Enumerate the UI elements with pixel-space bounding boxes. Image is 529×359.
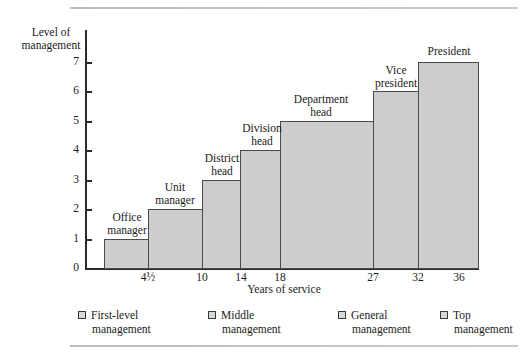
y-tick-label-6: 6 bbox=[57, 84, 79, 96]
y-tick-label-0: 0 bbox=[57, 261, 79, 273]
legend-label-middle-line2: management bbox=[222, 322, 281, 336]
bar-label-vice-president-line2: president bbox=[365, 77, 427, 90]
legend-label-middle-line1: Middle bbox=[221, 309, 254, 321]
bar-label-office-manager: Office manager bbox=[96, 211, 158, 237]
bar-president[interactable] bbox=[418, 62, 479, 269]
y-tick-label-7: 7 bbox=[57, 55, 79, 67]
legend-label-top-line1: Top bbox=[453, 309, 471, 321]
x-axis-title: Years of service bbox=[224, 283, 344, 296]
y-tick-3 bbox=[85, 180, 92, 182]
x-tick-label-36: 36 bbox=[439, 271, 479, 283]
bar-label-unit-manager-line1: Unit bbox=[142, 181, 208, 194]
x-tick-label-32: 32 bbox=[398, 271, 438, 283]
bar-label-division-head-line1: Division bbox=[233, 122, 291, 135]
x-tick-label-10: 10 bbox=[182, 271, 222, 283]
x-tick-label-14: 14 bbox=[221, 271, 261, 283]
x-tick-label-18: 18 bbox=[260, 271, 300, 283]
bar-label-district-head-line2: head bbox=[194, 165, 250, 178]
legend-label-first-level-line2: management bbox=[92, 322, 151, 336]
legend-item-first-level-management[interactable]: First-level management bbox=[78, 308, 151, 336]
legend-swatch-icon-general bbox=[338, 311, 346, 319]
bar-label-department-head: Department head bbox=[277, 93, 365, 119]
bar-label-unit-manager: Unit manager bbox=[142, 181, 208, 207]
plot-area: Level of management Years of service 7 6… bbox=[0, 0, 529, 300]
chart-legend: First-level management Middle management… bbox=[70, 308, 518, 342]
bar-label-district-head: District head bbox=[194, 152, 250, 178]
y-axis-title-line1: Level of bbox=[20, 26, 82, 39]
x-tick-label-27: 27 bbox=[353, 271, 393, 283]
bottom-divider-rule bbox=[70, 345, 518, 347]
bar-label-president-line1: President bbox=[412, 45, 486, 58]
bar-label-district-head-line1: District bbox=[194, 152, 250, 165]
bar-vice-president[interactable] bbox=[373, 91, 419, 269]
y-axis-title-line2: management bbox=[20, 39, 82, 52]
y-tick-label-5: 5 bbox=[57, 114, 79, 126]
y-tick-6 bbox=[85, 91, 92, 93]
legend-item-middle-management[interactable]: Middle management bbox=[208, 308, 281, 336]
bar-label-office-manager-line2: manager bbox=[96, 224, 158, 237]
y-tick-1 bbox=[85, 239, 92, 241]
bar-label-division-head: Division head bbox=[233, 122, 291, 148]
y-tick-label-2: 2 bbox=[57, 202, 79, 214]
y-axis-title: Level of management bbox=[20, 26, 82, 52]
bar-label-office-manager-line1: Office bbox=[96, 211, 158, 224]
legend-item-general-management[interactable]: General management bbox=[338, 308, 411, 336]
y-tick-label-3: 3 bbox=[57, 173, 79, 185]
bar-label-vice-president: Vice president bbox=[365, 64, 427, 90]
y-tick-label-4: 4 bbox=[57, 143, 79, 155]
legend-swatch-icon-top bbox=[440, 311, 448, 319]
y-tick-label-1: 1 bbox=[57, 232, 79, 244]
bar-label-department-head-line2: head bbox=[277, 106, 365, 119]
legend-label-first-level-line1: First-level bbox=[91, 309, 138, 321]
y-tick-5 bbox=[85, 121, 92, 123]
bar-label-vice-president-line1: Vice bbox=[365, 64, 427, 77]
bar-label-division-head-line2: head bbox=[233, 135, 291, 148]
y-tick-2 bbox=[85, 209, 92, 211]
legend-swatch-icon-middle bbox=[208, 311, 216, 319]
y-tick-4 bbox=[85, 150, 92, 152]
x-tick-label-4half: 4½ bbox=[128, 271, 168, 283]
legend-label-general-line2: management bbox=[352, 322, 411, 336]
legend-swatch-icon-first-level bbox=[78, 311, 86, 319]
bar-label-department-head-line1: Department bbox=[277, 93, 365, 106]
chart-page: Level of management Years of service 7 6… bbox=[0, 0, 529, 359]
legend-label-top-line2: management bbox=[454, 322, 513, 336]
bar-label-unit-manager-line2: manager bbox=[142, 194, 208, 207]
legend-label-general-line1: General bbox=[351, 309, 387, 321]
bar-label-president: President bbox=[412, 45, 486, 58]
bar-department-head[interactable] bbox=[280, 121, 374, 269]
bar-office-manager[interactable] bbox=[104, 239, 149, 269]
y-tick-7 bbox=[85, 62, 92, 64]
legend-item-top-management[interactable]: Top management bbox=[440, 308, 513, 336]
